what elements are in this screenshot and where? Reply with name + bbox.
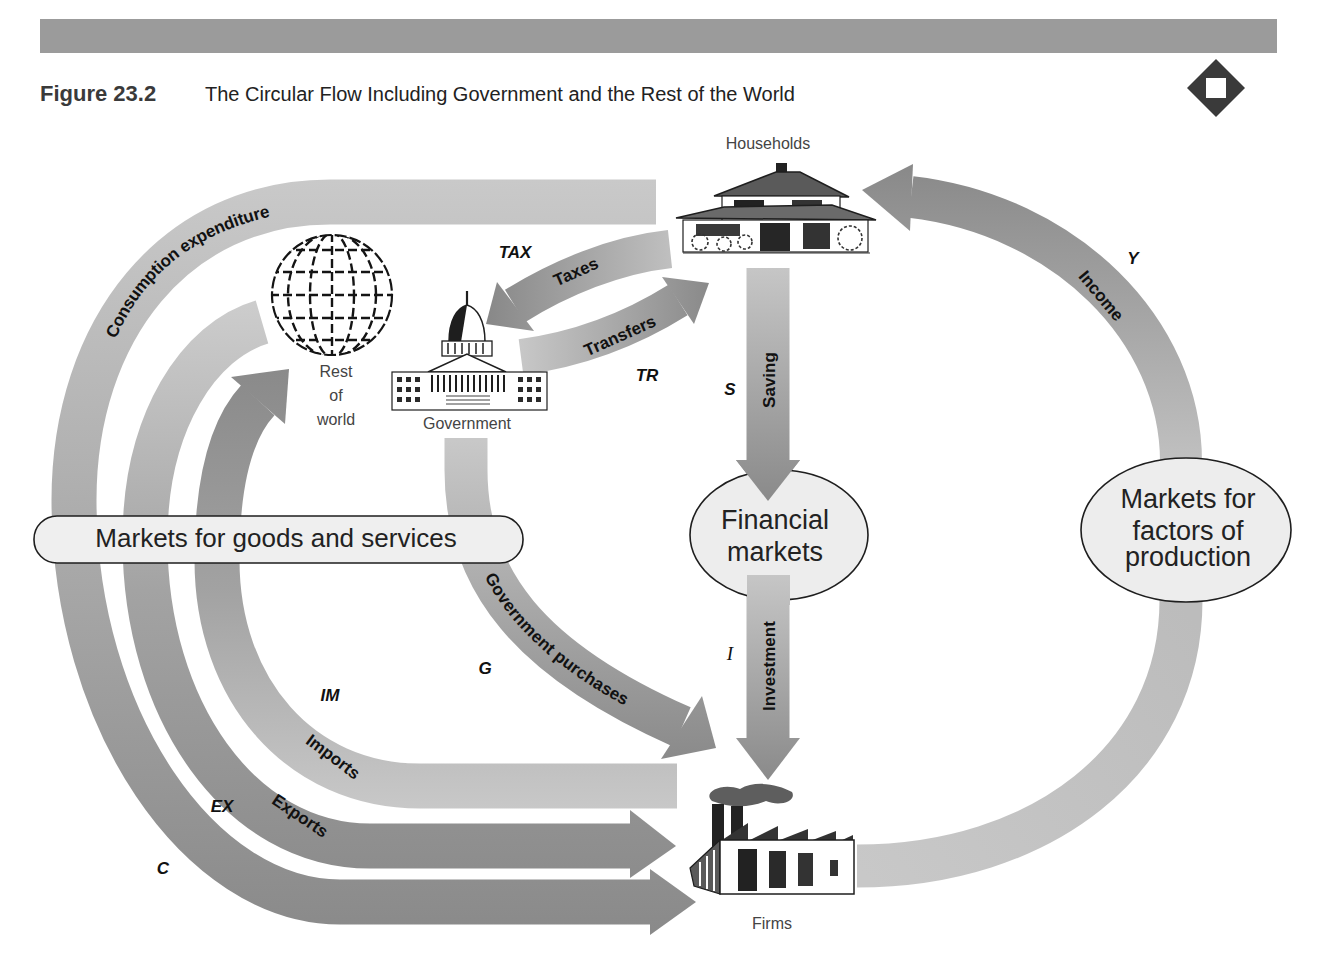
investment-symbol: I (726, 643, 735, 664)
window (518, 397, 523, 402)
factory-window (769, 851, 786, 888)
factor-services-band (857, 600, 1181, 866)
window (518, 377, 523, 382)
factor-markets-label-line1: Markets for (1120, 484, 1255, 514)
window (536, 377, 541, 382)
financial-markets: Financial markets (690, 460, 868, 605)
window (536, 397, 541, 402)
window (518, 387, 523, 392)
transfers-symbol: TR (636, 366, 659, 385)
globe-icon (270, 233, 394, 357)
house-window (803, 223, 830, 249)
roof-tooth (780, 829, 808, 840)
saving-label: Saving (760, 352, 779, 408)
house-lower-roof (676, 205, 876, 220)
factor-markets: Markets for factors of production (1081, 458, 1291, 602)
header-band (40, 19, 1277, 53)
roof-tooth (750, 826, 778, 840)
figure-title: The Circular Flow Including Government a… (205, 83, 795, 105)
investment-label: Investment (760, 621, 779, 711)
window (415, 397, 420, 402)
window (527, 397, 532, 402)
window (527, 387, 532, 392)
saving-symbol: S (724, 380, 736, 399)
consumption-arrowhead (650, 869, 696, 935)
house-upper-roof (714, 172, 849, 197)
window (397, 387, 402, 392)
window (527, 377, 532, 382)
window (415, 377, 420, 382)
window (397, 397, 402, 402)
house-door (760, 223, 790, 251)
government-label: Government (423, 415, 512, 432)
goods-services-label: Markets for goods and services (95, 523, 456, 553)
consumption-symbol: C (157, 859, 170, 878)
window (406, 377, 411, 382)
factory-window (830, 860, 838, 876)
factory-side-wall (690, 840, 720, 894)
financial-markets-label-line1: Financial (721, 505, 829, 535)
income-arrowhead (862, 164, 913, 231)
firms-label: Firms (752, 915, 792, 932)
window (397, 377, 402, 382)
window (406, 397, 411, 402)
factory-icon (690, 784, 854, 894)
government-purchases-symbol: G (478, 659, 491, 678)
factory-smoke (709, 784, 793, 806)
diamond-inner-square (1206, 78, 1226, 98)
factory-window (738, 849, 757, 891)
goods-services-market: Markets for goods and services (34, 516, 523, 563)
house-icon (676, 163, 876, 253)
window (406, 387, 411, 392)
rest-of-world-label-line3: world (316, 411, 355, 428)
window (536, 387, 541, 392)
investment-band-overlay (747, 575, 790, 605)
income-flow (862, 164, 1181, 462)
income-symbol: Y (1127, 249, 1140, 268)
factor-markets-label-line3: production (1125, 542, 1251, 572)
income-band (911, 197, 1181, 462)
figure-number: Figure 23.2 (40, 81, 156, 106)
diamond-square-icon (1187, 59, 1245, 117)
capitol-pediment (428, 354, 506, 372)
exports-arrowhead (630, 810, 676, 878)
households-label: Households (726, 135, 811, 152)
factor-services-flow (857, 600, 1181, 866)
exports-symbol: EX (211, 797, 235, 816)
financial-markets-label-line2: markets (727, 537, 823, 567)
rest-of-world-label-line2: of (329, 387, 343, 404)
imports-symbol: IM (321, 686, 341, 705)
investment-arrowhead (736, 738, 800, 780)
circular-flow-diagram: Figure 23.2 The Circular Flow Including … (0, 0, 1317, 962)
factory-window (798, 853, 813, 886)
window (415, 387, 420, 392)
rest-of-world-label-line1: Rest (320, 363, 353, 380)
globe-grid (270, 233, 394, 357)
taxes-symbol: TAX (499, 243, 533, 262)
